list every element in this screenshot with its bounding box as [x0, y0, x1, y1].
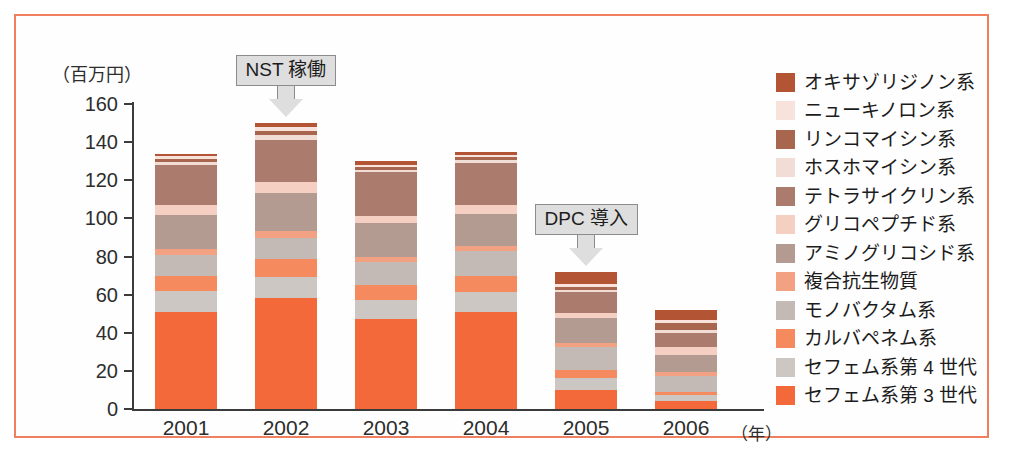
y-axis-tick-label: 160 — [62, 94, 118, 114]
x-axis-line — [132, 409, 764, 411]
legend-label: モノバクタム系 — [804, 301, 936, 320]
bar-segment — [355, 300, 417, 319]
bar-segment — [155, 291, 217, 312]
x-axis-tick-label: 2003 — [336, 416, 436, 440]
legend-item: セフェム系第 3 世代 — [776, 382, 977, 411]
bar-segment — [455, 251, 517, 276]
y-axis-tick — [124, 103, 132, 105]
y-axis-unit-label: （百万円） — [52, 60, 142, 86]
y-axis-tick-label: 100 — [62, 208, 118, 228]
legend-swatch-icon — [776, 73, 795, 92]
y-axis-tick — [124, 179, 132, 181]
bar-segment — [655, 355, 717, 372]
legend-label: テトラサイクリン系 — [804, 187, 975, 206]
y-axis-tick-label: 40 — [62, 323, 118, 343]
legend-item: モノバクタム系 — [776, 296, 977, 325]
x-axis-tick-label: 2004 — [436, 416, 536, 440]
legend-label: ホスホマイシン系 — [804, 158, 956, 177]
bar-2003 — [355, 161, 417, 409]
legend-label: オキサゾリジノン系 — [804, 73, 975, 92]
legend-label: カルバペネム系 — [804, 329, 937, 348]
legend-item: ホスホマイシン系 — [776, 154, 977, 183]
y-axis-tick-label: 0 — [62, 399, 118, 419]
annotation-label: NST 稼働 — [236, 55, 337, 86]
legend-swatch-icon — [776, 386, 795, 405]
chart-legend: オキサゾリジノン系ニューキノロン系リンコマイシン系ホスホマイシン系テトラサイクリ… — [776, 68, 977, 410]
bar-segment — [655, 401, 717, 409]
annotation-arrow-icon — [269, 86, 303, 117]
annotation-callout: DPC 導入 — [535, 204, 638, 266]
bar-segment — [255, 140, 317, 182]
bar-segment — [155, 255, 217, 276]
y-axis-tick-label: 120 — [62, 170, 118, 190]
y-axis-tick — [124, 332, 132, 334]
bar-segment — [355, 262, 417, 285]
bar-2001 — [155, 154, 217, 409]
bar-segment — [255, 193, 317, 231]
bar-segment — [355, 223, 417, 257]
x-axis-tick-label: 2002 — [236, 416, 336, 440]
bar-segment — [155, 312, 217, 409]
legend-swatch-icon — [776, 301, 795, 320]
bar-segment — [555, 318, 617, 344]
legend-item: カルバペネム系 — [776, 325, 977, 354]
bar-segment — [555, 370, 617, 378]
bar-segment — [255, 277, 317, 299]
chart-frame: （百万円） 160140120100806040200 200120022003… — [14, 14, 989, 438]
legend-swatch-icon — [776, 101, 795, 120]
legend-swatch-icon — [776, 244, 795, 263]
x-axis-unit-label: （年） — [731, 420, 782, 445]
bar-segment — [255, 298, 317, 409]
bar-segment — [355, 172, 417, 216]
bar-2004 — [455, 152, 517, 409]
y-axis-tick-label: 20 — [62, 361, 118, 381]
y-axis-tick-label: 60 — [62, 285, 118, 305]
bar-segment — [355, 319, 417, 409]
legend-item: アミノグリコシド系 — [776, 239, 977, 268]
y-axis-tick-label: 80 — [62, 247, 118, 267]
annotation-arrow-icon — [569, 235, 603, 266]
legend-item: オキサゾリジノン系 — [776, 68, 977, 97]
x-axis-tick-label: 2006 — [636, 416, 736, 440]
x-axis-tick-label: 2001 — [136, 416, 236, 440]
bar-segment — [555, 347, 617, 370]
bar-segment — [655, 323, 717, 330]
y-axis-tick — [124, 370, 132, 372]
legend-item: ニューキノロン系 — [776, 97, 977, 126]
bar-segment — [155, 276, 217, 291]
bar-segment — [455, 312, 517, 409]
bar-segment — [655, 376, 717, 392]
bar-segment — [655, 347, 717, 355]
y-axis-tick — [124, 256, 132, 258]
bar-segment — [555, 390, 617, 409]
bar-segment — [155, 205, 217, 215]
annotation-callout: NST 稼働 — [236, 55, 337, 117]
annotation-label: DPC 導入 — [535, 204, 638, 235]
bar-segment — [555, 378, 617, 390]
legend-label: セフェム系第 4 世代 — [804, 358, 977, 377]
y-axis-tick — [124, 408, 132, 410]
legend-label: セフェム系第 3 世代 — [804, 386, 977, 405]
bar-2002 — [255, 123, 317, 409]
bar-segment — [455, 276, 517, 292]
bar-segment — [255, 182, 317, 192]
bar-segment — [655, 395, 717, 402]
y-axis-tick — [124, 141, 132, 143]
plot-area — [132, 104, 762, 409]
x-axis-tick-label: 2005 — [536, 416, 636, 440]
legend-swatch-icon — [776, 329, 795, 348]
bar-segment — [155, 215, 217, 249]
bar-segment — [655, 310, 717, 320]
y-axis-tick-label: 140 — [62, 132, 118, 152]
legend-swatch-icon — [776, 158, 795, 177]
bar-segment — [255, 238, 317, 259]
bar-segment — [355, 285, 417, 300]
y-axis-tick — [124, 217, 132, 219]
bar-2006 — [655, 310, 717, 409]
legend-label: ニューキノロン系 — [804, 101, 955, 120]
bar-segment — [455, 292, 517, 312]
legend-item: グリコペプチド系 — [776, 211, 977, 240]
bar-segment — [455, 163, 517, 205]
bar-segment — [255, 231, 317, 239]
legend-item: セフェム系第 4 世代 — [776, 353, 977, 382]
